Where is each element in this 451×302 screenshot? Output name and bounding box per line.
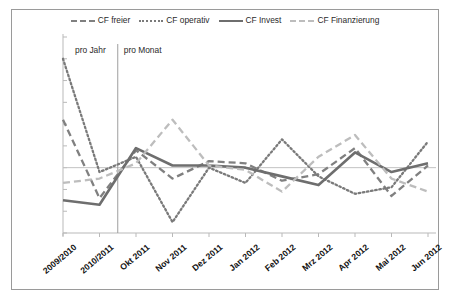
chart-container: CF freier CF operativ CF Invest CF Finan… (11, 9, 439, 290)
annotation-pro-monat: pro Monat (124, 45, 162, 55)
annotation-pro-jahr: pro Jahr (75, 45, 106, 55)
